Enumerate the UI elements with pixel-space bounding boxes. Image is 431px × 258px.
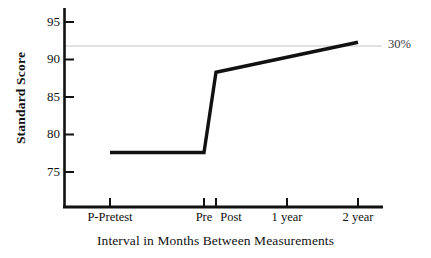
y-axis-ticks <box>65 22 74 172</box>
y-tick-label-85: 85 <box>36 89 60 105</box>
x-axis-ticks <box>110 198 358 206</box>
y-tick-label-90: 90 <box>36 51 60 67</box>
y-tick-label-95: 95 <box>36 14 60 30</box>
x-axis-title: Interval in Months Between Measurements <box>0 233 431 249</box>
x-tick-label-p-pretest: P-Pretest <box>70 210 150 225</box>
x-tick-label-2-year: 2 year <box>330 210 386 225</box>
y-tick-label-75: 75 <box>36 164 60 180</box>
percentile-reference-label: 30% <box>388 37 411 52</box>
x-tick-label-post: Post <box>200 210 262 225</box>
chart-container: Standard Score 95 90 85 80 75 P-Pretest … <box>0 0 431 258</box>
y-tick-label-80: 80 <box>36 126 60 142</box>
data-series-line <box>110 42 358 152</box>
x-tick-label-1-year: 1 year <box>259 210 315 225</box>
